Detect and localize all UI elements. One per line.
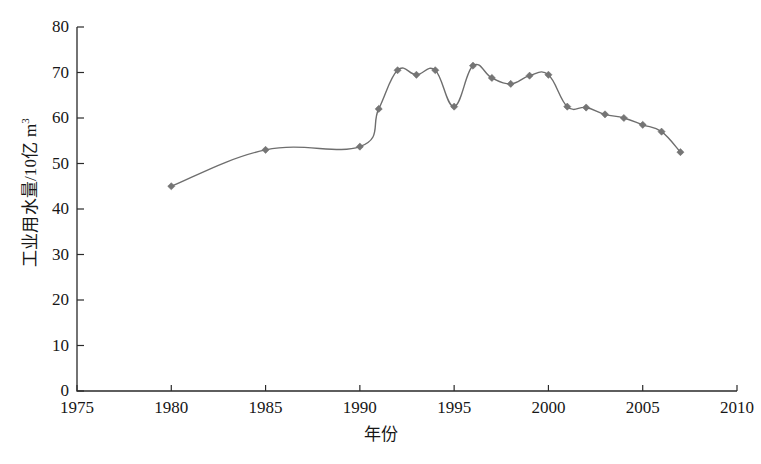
x-tick-label: 2000: [513, 399, 583, 416]
x-tick-label: 1990: [325, 399, 395, 416]
series-line: [171, 64, 680, 186]
data-series: [168, 62, 684, 190]
y-tick-label: 40: [29, 200, 69, 217]
y-tick-label: 80: [29, 18, 69, 35]
axes: [77, 27, 737, 391]
plot-area: [0, 0, 761, 464]
y-tick-label: 50: [29, 155, 69, 172]
x-tick-label: 1980: [136, 399, 206, 416]
y-tick-label: 0: [29, 382, 69, 399]
data-point-marker: [375, 105, 382, 112]
x-tick-label: 1995: [419, 399, 489, 416]
x-tick-label: 1975: [42, 399, 112, 416]
data-point-marker: [620, 114, 627, 121]
data-point-marker: [526, 72, 533, 79]
data-point-marker: [639, 121, 646, 128]
data-point-marker: [601, 111, 608, 118]
data-point-marker: [168, 183, 175, 190]
figure-caption: [0, 452, 761, 464]
data-point-marker: [507, 80, 514, 87]
x-tick-label: 2010: [702, 399, 761, 416]
axis-spine: [77, 27, 737, 391]
y-tick-label: 70: [29, 64, 69, 81]
x-axis-title: 年份: [0, 420, 761, 445]
data-point-marker: [583, 104, 590, 111]
x-tick-label: 1985: [231, 399, 301, 416]
data-point-marker: [262, 146, 269, 153]
y-axis-title-unit: 亿 m: [21, 124, 40, 159]
y-tick-label: 60: [29, 109, 69, 126]
data-point-marker: [413, 71, 420, 78]
data-point-marker: [356, 143, 363, 150]
chart-figure: 工业用水量/10亿 m3 01020304050607080 197519801…: [0, 0, 761, 464]
y-tick-label: 30: [29, 246, 69, 263]
x-tick-label: 2005: [608, 399, 678, 416]
y-tick-label: 20: [29, 291, 69, 308]
y-tick-label: 10: [29, 337, 69, 354]
